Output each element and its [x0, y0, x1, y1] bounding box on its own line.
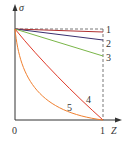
x-axis-arrow-icon [115, 118, 122, 123]
x-tick-label-1: 1 [100, 125, 105, 136]
curve-label-1: 1 [106, 24, 111, 35]
curve-3 [15, 29, 103, 56]
curve-label-2: 2 [106, 38, 111, 49]
curve-label-3: 3 [106, 52, 111, 63]
sigma-vs-z-chart: σ Z 0 1 1 2 3 4 5 [0, 0, 131, 144]
curve-label-5: 5 [67, 102, 72, 113]
x-axis-label: Z [111, 125, 117, 136]
curve-label-4: 4 [86, 94, 91, 105]
y-axis-arrow-icon [13, 4, 18, 11]
origin-tick-label: 0 [12, 125, 17, 136]
y-axis-label: σ [19, 2, 25, 13]
